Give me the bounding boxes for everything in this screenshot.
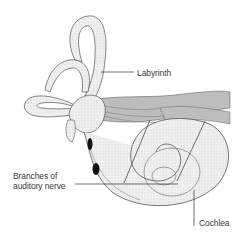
auditory-nerve-branches-label: Branches of auditory nerve <box>13 171 65 191</box>
cochlea-label: Cochlea <box>199 218 230 228</box>
dark-spot-lower <box>93 163 100 175</box>
auditory-nerve-bundle <box>88 91 230 124</box>
labyrinth-label: Labyrinth <box>137 68 171 78</box>
branches-label-line1: Branches of <box>13 171 65 181</box>
inner-ear-diagram: Labyrinth Branches of auditory nerve Coc… <box>0 0 245 239</box>
cochlea-structure <box>84 118 229 205</box>
dark-spot-upper <box>88 138 93 150</box>
branches-label-line2: auditory nerve <box>13 181 65 191</box>
inner-ear-illustration <box>0 0 245 239</box>
